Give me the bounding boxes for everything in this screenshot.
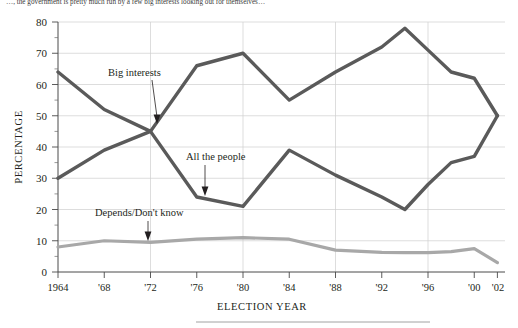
- x-axis-title: ELECTION YEAR: [217, 301, 307, 312]
- series-depends-dont-know: [58, 238, 497, 263]
- series-big-interests: [58, 28, 497, 178]
- y-tick-label: 10: [36, 235, 48, 247]
- x-tick-label: '96: [422, 282, 434, 293]
- y-tick-label: 80: [36, 16, 48, 28]
- y-tick-label: 20: [36, 204, 48, 216]
- annotation-label: Big interests: [108, 67, 161, 78]
- x-tick-label: '88: [329, 282, 341, 293]
- annotation-label: All the people: [186, 151, 246, 162]
- y-axis-ticks: [52, 22, 58, 272]
- annotation-all-the-people: All the people: [186, 151, 246, 196]
- x-tick-label: 1964: [48, 282, 70, 293]
- x-tick-label: '72: [144, 282, 156, 293]
- x-tick-label: '02: [492, 282, 504, 293]
- y-tick-label: 70: [36, 47, 48, 59]
- x-axis-tick-labels: 1964 '68 '72 '76 '80 '84 '88 '92 '96 '00…: [48, 282, 505, 293]
- x-tick-label: '84: [283, 282, 296, 293]
- y-axis-tick-labels: 80 70 60 50 40 30 20 10 0: [36, 16, 48, 278]
- x-tick-label: '80: [237, 282, 249, 293]
- annotation-depends-dont-know: Depends/Don't know: [95, 207, 184, 241]
- y-axis-title: PERCENTAGE: [13, 110, 24, 183]
- x-axis-ticks: [58, 272, 497, 278]
- y-tick-label: 60: [36, 79, 48, 91]
- annotation-label: Depends/Don't know: [95, 207, 184, 218]
- x-tick-label: '68: [98, 282, 110, 293]
- y-tick-label: 30: [36, 172, 48, 184]
- line-chart-svg: 80 70 60 50 40 30 20 10 0 PERCENTAGE: [0, 0, 518, 328]
- chart-figure: …, the government is pretty much run by …: [0, 0, 518, 328]
- y-tick-label: 50: [36, 110, 48, 122]
- arrow-down-icon: [202, 187, 209, 196]
- x-tick-label: '76: [191, 282, 203, 293]
- x-tick-label: '00: [468, 282, 480, 293]
- y-tick-label: 40: [36, 141, 48, 153]
- x-tick-label: '92: [376, 282, 388, 293]
- y-tick-label: 0: [42, 266, 48, 278]
